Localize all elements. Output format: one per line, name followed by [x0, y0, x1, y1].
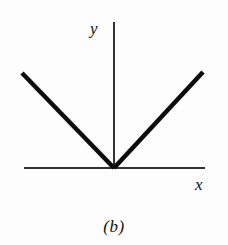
- v-left-branch: [22, 73, 114, 168]
- plot-canvas: [0, 0, 228, 245]
- v-right-branch: [114, 72, 203, 168]
- x-axis-label: x: [195, 176, 203, 193]
- figure-caption: (b): [0, 218, 228, 235]
- y-axis-label: y: [90, 20, 98, 37]
- figure-container: y x (b): [0, 0, 228, 245]
